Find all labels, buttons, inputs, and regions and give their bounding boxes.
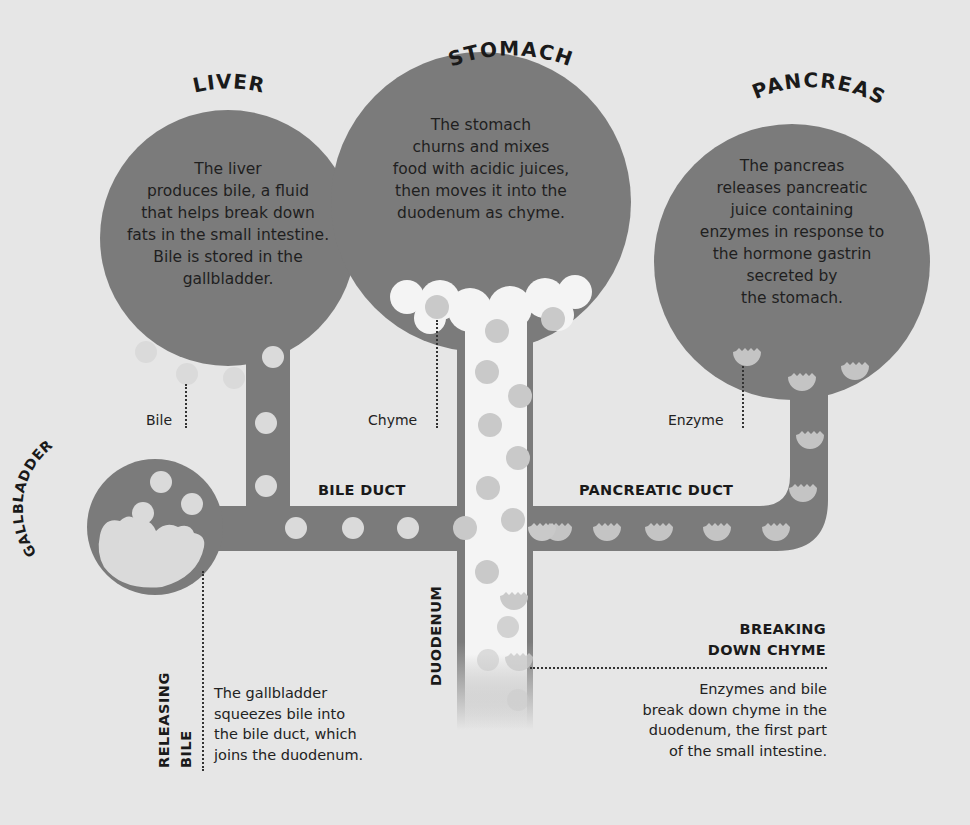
liver-title: LIVER [191, 69, 268, 97]
pancreas-title: PANCREAS [749, 68, 891, 110]
breaking-down-chyme-description: Enzymes and bile break down chyme in the… [600, 679, 827, 761]
chyme-label: Chyme [368, 412, 417, 428]
bile-duct-label: BILE DUCT [318, 482, 406, 498]
breaking-down-chyme-title: BREAKING DOWN CHYME [640, 619, 826, 661]
pancreas-description: The pancreas releases pancreatic juice c… [682, 155, 902, 309]
releasing-bile-title-line2: BILE [178, 730, 194, 768]
stomach-description: The stomach churns and mixes food with a… [376, 114, 586, 224]
releasing-bile-title-line1: RELEASING [156, 672, 172, 768]
liver-description: The liver produces bile, a fluid that he… [128, 158, 328, 290]
enzyme-leader [742, 366, 744, 428]
enzyme-label: Enzyme [668, 412, 724, 428]
duodenum-label: DUODENUM [428, 586, 444, 686]
gallbladder-title: GALLBLADDER [10, 436, 56, 560]
releasing-bile-description: The gallbladder squeezes bile into the b… [214, 683, 363, 765]
bile-leader [185, 384, 187, 428]
pancreatic-duct-label: PANCREATIC DUCT [579, 482, 733, 498]
releasing-bile-leader [202, 571, 204, 771]
chyme-flow [390, 275, 592, 730]
chyme-leader [436, 320, 438, 428]
bile-label: Bile [146, 412, 172, 428]
breaking-down-chyme-leader [530, 667, 827, 669]
